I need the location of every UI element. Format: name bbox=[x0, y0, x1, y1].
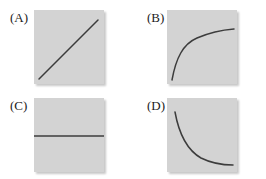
curve-a-linear-increasing bbox=[39, 20, 98, 79]
curve-d-convex-decreasing bbox=[175, 112, 233, 165]
panel-label-a: (A) bbox=[10, 11, 28, 24]
panel-plot-c[interactable] bbox=[34, 98, 104, 172]
panel-plot-a[interactable] bbox=[34, 10, 104, 84]
plot-svg-b bbox=[167, 10, 237, 84]
panel-label-c: (C) bbox=[10, 99, 27, 112]
plot-svg-d bbox=[167, 98, 237, 172]
panel-plot-d[interactable] bbox=[167, 98, 237, 172]
panel-label-b: (B) bbox=[147, 11, 164, 24]
plot-svg-c bbox=[34, 98, 104, 172]
figure-four-graph-options: (A) (B) (C) (D) bbox=[0, 0, 266, 179]
panel-label-d: (D) bbox=[147, 99, 165, 112]
plot-svg-a bbox=[34, 10, 104, 84]
curve-b-concave-increasing bbox=[172, 29, 234, 80]
panel-plot-b[interactable] bbox=[167, 10, 237, 84]
